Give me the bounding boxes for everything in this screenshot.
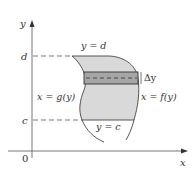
- y-axis-arrow-icon: [30, 20, 35, 27]
- level-d-label: d: [21, 51, 27, 62]
- delta-y-label: Δy: [144, 72, 157, 83]
- origin-label: 0: [22, 153, 28, 164]
- region-between-curves-diagram: y x 0 d c y = d y = c x = g(y) x = f(y) …: [0, 0, 192, 184]
- x-axis-arrow-icon: [181, 149, 188, 154]
- shaded-region: [72, 56, 139, 120]
- top-boundary-label: y = d: [80, 40, 106, 51]
- x-axis-label: x: [180, 157, 186, 168]
- right-boundary-label: x = f(y): [141, 91, 177, 102]
- left-boundary-label: x = g(y): [37, 91, 76, 102]
- y-axis-label: y: [19, 18, 26, 29]
- level-c-label: c: [22, 115, 28, 126]
- bottom-boundary-label: y = c: [95, 121, 121, 132]
